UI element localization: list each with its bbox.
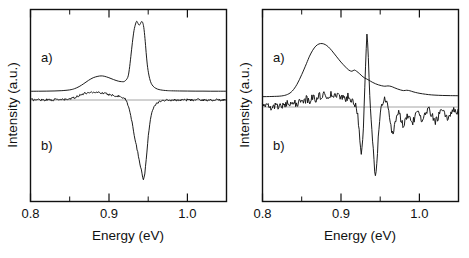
right-x-axis-title: Energy (eV) [324,228,396,243]
right-trace-a [263,44,459,97]
right-xtick-label-0: 0.8 [253,206,271,221]
right-y-axis-title: Intensity (a.u.) [237,62,252,148]
right-spectrum-panel: a) b) 0.8 0.9 1.0 Energy (eV) Intensity … [0,0,469,258]
right-xtick-label-1: 0.9 [332,206,350,221]
right-trace-b [263,34,458,176]
spectra-figure: a) b) 0.8 0.9 1.0 Energy (eV) Intensity … [0,0,469,258]
right-panel-svg: a) b) 0.8 0.9 1.0 Energy (eV) Intensity … [0,0,469,258]
right-xtick-label-2: 1.0 [410,206,428,221]
right-curve-label-b: b) [273,138,285,153]
right-curve-label-a: a) [273,50,285,65]
right-plot-frame [263,10,459,202]
right-axis-ticks [263,10,459,202]
